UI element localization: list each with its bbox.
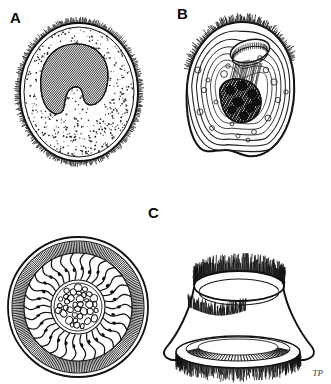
figure-c-bell-ciliate bbox=[146, 248, 331, 384]
figure-b-peristome-ciliate bbox=[168, 8, 318, 173]
illustration-plate: A B C bbox=[0, 0, 331, 384]
figure-c-drawing bbox=[146, 248, 331, 384]
panel-label-c: C bbox=[148, 205, 159, 220]
figure-a-ovoid-ciliate bbox=[8, 12, 150, 172]
artist-signature: TP bbox=[312, 368, 323, 378]
figure-oral-disc-apical-view bbox=[2, 232, 154, 382]
figure-a-drawing bbox=[8, 12, 150, 172]
figure-oral-disc-drawing bbox=[2, 232, 154, 382]
figure-b-drawing bbox=[168, 8, 318, 173]
